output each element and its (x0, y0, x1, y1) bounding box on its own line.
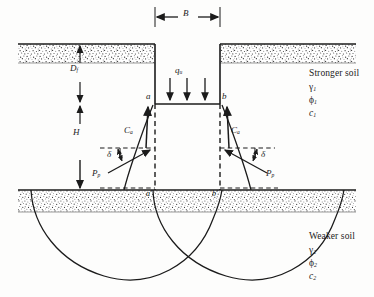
thickness-label-H: H (73, 128, 80, 137)
lower-soil-annotation: Weaker soil γ2 ϕ2 c2 (309, 232, 355, 282)
point-label-a: a (146, 92, 151, 101)
delta-label-left: δ (107, 150, 111, 159)
point-label-b: b (222, 92, 227, 101)
punching-block-dashed (100, 104, 278, 190)
passive-force-label-right: Pp (266, 169, 274, 179)
adhesion-arrow-left (146, 107, 148, 148)
adhesion-label-left: Ca (124, 126, 133, 136)
upper-soil-friction-angle: ϕ1 (309, 96, 359, 106)
load-label-qu: qu (175, 66, 182, 76)
upper-soil-unit-weight: γ1 (309, 83, 359, 93)
point-label-a-prime: a′ (146, 190, 152, 198)
lower-soil-unit-weight: γ2 (309, 246, 355, 256)
upper-soil-hatch-left (18, 44, 155, 63)
depth-label-Df: Df (70, 64, 78, 74)
delta-label-right: δ (261, 150, 265, 159)
lower-soil-cohesion: c2 (309, 272, 355, 282)
left-force-system (108, 105, 153, 190)
adhesion-label-right: Ca (231, 126, 240, 136)
figure-bearing-capacity-layered-soil: B Df H qu a b a′ b′ Ca Ca δ δ Pp (0, 0, 374, 297)
lower-soil-friction-angle: ϕ2 (309, 259, 355, 269)
lower-soil-title: Weaker soil (309, 232, 355, 242)
applied-load-arrows (170, 78, 205, 100)
upper-soil-title: Stronger soil (309, 69, 359, 79)
passive-force-arrow-left (108, 150, 150, 173)
upper-soil-layer (18, 44, 356, 63)
lower-soil-layer (18, 190, 356, 212)
upper-soil-cohesion: c1 (309, 109, 359, 119)
passive-force-label-left: Pp (92, 169, 100, 179)
width-label-B: B (183, 9, 189, 18)
upper-soil-hatch-right (220, 44, 356, 63)
adhesion-arrow-right (227, 107, 229, 148)
upper-soil-annotation: Stronger soil γ1 ϕ1 c1 (309, 69, 359, 119)
point-label-b-prime: b′ (212, 190, 218, 198)
lower-soil-hatch (18, 190, 356, 212)
